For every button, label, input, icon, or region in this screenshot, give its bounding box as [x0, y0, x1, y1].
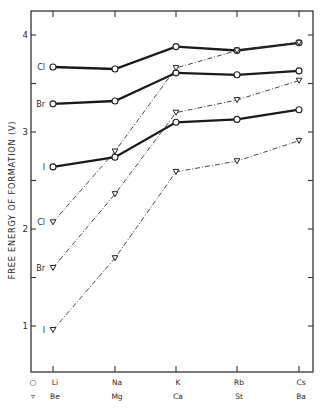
x-label-row2: Be: [50, 392, 60, 401]
legend-triangle-symbol: ▿: [31, 392, 35, 401]
triangle-marker: [296, 78, 302, 83]
legend-circle-symbol: ○: [30, 378, 37, 387]
circle-marker: [112, 66, 118, 72]
triangle-marker: [50, 327, 56, 332]
circle-marker: [112, 98, 118, 104]
circle-marker: [50, 101, 56, 107]
y-tick-label: 3: [23, 127, 28, 137]
series-label: I: [43, 326, 45, 335]
y-tick-label: 1: [23, 321, 28, 331]
free-energy-chart: 1234 FREE ENERGY OF FORMATION (V) ClBrIC…: [0, 0, 322, 409]
circle-marker: [234, 116, 240, 122]
x-label-row2: St: [235, 392, 243, 401]
circle-marker: [173, 119, 179, 125]
x-label-row2: Ba: [296, 392, 306, 401]
circle-marker: [50, 164, 56, 170]
triangle-marker: [234, 159, 240, 164]
axis-ticks: [31, 11, 313, 372]
circle-marker: [50, 64, 56, 70]
x-label-row1: Cs: [296, 378, 305, 387]
series-markers: [50, 40, 302, 333]
circle-marker: [173, 44, 179, 50]
x-label-row1: Rb: [234, 378, 244, 387]
y-tick-label: 2: [23, 224, 28, 234]
x-label-row1: Li: [52, 378, 58, 387]
plot-border: [31, 11, 313, 372]
triangle-marker: [173, 169, 179, 174]
x-label-row2: Ca: [173, 392, 183, 401]
triangle-marker: [234, 98, 240, 103]
x-label-row1: K: [176, 378, 182, 387]
x-label-row2: Mg: [111, 392, 122, 401]
series-label: Cl: [37, 218, 45, 227]
circle-marker: [112, 154, 118, 160]
triangle-marker: [50, 220, 56, 225]
circle-marker: [296, 68, 302, 74]
x-label-row1: Na: [112, 378, 122, 387]
triangle-marker: [173, 110, 179, 115]
circle-marker: [234, 72, 240, 78]
triangle-marker: [50, 265, 56, 270]
x-category-labels: ○▿LiBeNaMgKCaRbStCsBa: [30, 378, 306, 401]
series-line-alkali-i: [53, 110, 299, 167]
y-tick-label: 4: [23, 30, 28, 40]
series-label: I: [43, 163, 45, 172]
y-tick-labels: 1234: [23, 30, 28, 331]
series-label: Cl: [37, 63, 45, 72]
triangle-marker: [296, 138, 302, 143]
triangle-marker: [173, 66, 179, 71]
y-axis-label: FREE ENERGY OF FORMATION (V): [7, 121, 17, 280]
series-labels: ClBrIClBrI: [36, 63, 45, 335]
series-label: Br: [36, 100, 45, 109]
circle-marker: [296, 107, 302, 113]
plot-frame: [31, 11, 313, 372]
series-label: Br: [36, 264, 45, 273]
series-lines: [53, 43, 299, 330]
